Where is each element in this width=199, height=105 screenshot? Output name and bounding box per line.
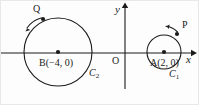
x-axis-label: x xyxy=(186,54,191,65)
motion-arrow-q-curve xyxy=(27,18,41,28)
point-label-p: P xyxy=(182,20,188,30)
origin-label: O xyxy=(112,56,119,66)
y-axis-label: y xyxy=(115,4,120,15)
curve-label-c2-subscript: 2 xyxy=(96,72,100,80)
point-q-marker xyxy=(41,17,45,21)
geometry-figure: x y O B(−4, 0) C2 A(2, 0) C1 Q P xyxy=(0,0,199,105)
curve-label-c1-letter: C xyxy=(169,68,176,79)
curve-label-c2: C2 xyxy=(89,68,99,78)
point-p-marker xyxy=(175,32,179,36)
y-axis-arrowhead xyxy=(122,3,128,9)
circle-c2-group xyxy=(24,17,92,86)
curve-label-c1: C1 xyxy=(169,69,179,79)
motion-arrow-p-head xyxy=(166,25,169,29)
x-axis-arrowhead xyxy=(191,50,197,57)
figure-canvas xyxy=(1,1,199,105)
center-point-a xyxy=(162,50,166,54)
curve-label-c1-subscript: 1 xyxy=(176,73,180,81)
curve-label-c2-letter: C xyxy=(89,67,96,78)
center-point-b xyxy=(56,50,60,54)
motion-arrow-q-head xyxy=(25,29,30,32)
center-label-a: A(2, 0) xyxy=(150,58,179,68)
center-label-b: B(−4, 0) xyxy=(39,58,73,68)
point-label-q: Q xyxy=(33,4,40,14)
